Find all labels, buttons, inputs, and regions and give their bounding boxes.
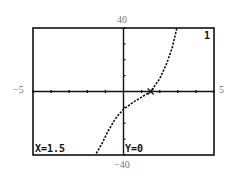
equation-index: 1: [204, 31, 210, 41]
y-readout: Y=0: [125, 144, 143, 154]
x-readout: X=1.5: [35, 144, 65, 154]
axes: [33, 28, 214, 155]
